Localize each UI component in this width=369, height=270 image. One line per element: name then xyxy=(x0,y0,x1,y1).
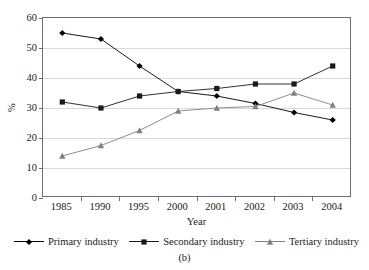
series-line xyxy=(62,66,332,108)
y-tick-label: 40 xyxy=(27,73,38,84)
y-tick-label: 30 xyxy=(27,103,38,114)
data-point-marker xyxy=(59,30,65,36)
data-point-marker xyxy=(267,238,273,244)
y-axis-label: % xyxy=(4,17,18,197)
data-point-marker xyxy=(253,81,258,86)
data-point-marker xyxy=(291,81,296,86)
data-point-marker xyxy=(176,89,181,94)
data-point-marker xyxy=(214,86,219,91)
legend-item[interactable]: Tertiary industry xyxy=(255,236,359,247)
x-tick-label: 1990 xyxy=(89,201,110,212)
data-point-marker xyxy=(291,90,297,96)
chart-figure: % 0102030405060 198519901995200020012002… xyxy=(0,0,369,270)
data-point-marker xyxy=(98,142,104,148)
legend-item[interactable]: Secondary industry xyxy=(129,236,244,247)
data-point-marker xyxy=(291,109,297,115)
data-point-marker xyxy=(214,93,220,99)
x-tick-label: 2000 xyxy=(167,201,188,212)
y-tick-label: 0 xyxy=(32,193,37,204)
series-tertiary-industry xyxy=(59,90,336,159)
x-tick-label: 2002 xyxy=(244,201,265,212)
legend-label: Primary industry xyxy=(48,236,119,247)
x-axis-title: Year xyxy=(42,216,351,227)
data-point-marker xyxy=(136,63,142,69)
y-tick-label: 60 xyxy=(27,13,38,24)
data-point-marker xyxy=(26,238,32,244)
x-tick-label: 1985 xyxy=(51,201,72,212)
legend-label: Secondary industry xyxy=(163,236,244,247)
y-tick-label: 50 xyxy=(27,43,38,54)
chart-legend: Primary industrySecondary industryTertia… xyxy=(14,236,359,247)
figure-caption: (b) xyxy=(0,252,369,263)
legend-item[interactable]: Primary industry xyxy=(14,236,119,247)
data-point-marker xyxy=(330,63,335,68)
legend-marker-square-icon xyxy=(129,237,159,247)
x-tick-label: 2003 xyxy=(283,201,304,212)
data-point-marker xyxy=(98,36,104,42)
data-point-marker xyxy=(330,117,336,123)
data-point-marker xyxy=(137,93,142,98)
series-overlay xyxy=(43,18,352,198)
x-tick-label: 2004 xyxy=(321,201,342,212)
data-point-marker xyxy=(142,239,147,244)
y-axis-label-text: % xyxy=(6,103,17,112)
x-tick-label: 1995 xyxy=(128,201,149,212)
data-point-marker xyxy=(136,127,142,133)
legend-marker-diamond-icon xyxy=(14,237,44,247)
data-point-marker xyxy=(98,105,103,110)
x-tick-label: 2001 xyxy=(205,201,226,212)
y-tick-label: 20 xyxy=(27,133,38,144)
series-secondary-industry xyxy=(60,63,336,110)
x-axis-tick-labels: 19851990199520002001200220032004 xyxy=(42,201,351,215)
plot-area: 0102030405060 xyxy=(42,17,351,197)
legend-label: Tertiary industry xyxy=(289,236,359,247)
y-tick-label: 10 xyxy=(27,163,38,174)
legend-marker-triangle-icon xyxy=(255,237,285,247)
data-point-marker xyxy=(60,99,65,104)
